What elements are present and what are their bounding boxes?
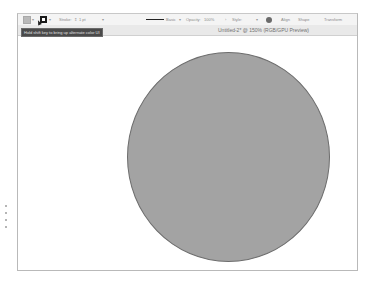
- canvas-ellipse-shape[interactable]: [127, 52, 330, 262]
- shape-button[interactable]: Shape: [298, 15, 310, 24]
- stroke-weight-dropdown[interactable]: ▾: [102, 15, 104, 24]
- stroke-label: Stroke:: [59, 15, 72, 24]
- opacity-label[interactable]: Opacity:: [186, 15, 201, 24]
- stroke-weight-input[interactable]: 1 pt: [79, 15, 86, 24]
- opacity-dropdown[interactable]: ›: [225, 15, 226, 24]
- document-title-tab[interactable]: Untitled-2* @ 150% (RGB/GPU Preview): [218, 27, 309, 33]
- brush-label: Basic: [166, 17, 176, 22]
- align-button[interactable]: Align: [281, 15, 290, 24]
- brush-dropdown[interactable]: ▾: [179, 15, 181, 24]
- margin-dot: [5, 212, 7, 214]
- recolor-button[interactable]: [266, 15, 272, 24]
- transform-button[interactable]: Transform: [324, 15, 342, 24]
- margin-dot: [5, 205, 7, 207]
- style-label[interactable]: Style:: [232, 15, 242, 24]
- tooltip: Hold shift key to bring up alternate col…: [21, 28, 103, 37]
- fill-color-icon: [23, 16, 31, 24]
- fill-swatch[interactable]: [23, 15, 31, 24]
- margin-dot: [5, 219, 7, 221]
- brush-stroke-preview-icon: [146, 19, 164, 20]
- margin-dot: [5, 226, 7, 228]
- recolor-globe-icon: [266, 17, 272, 23]
- stroke-dropdown-caret[interactable]: ▾: [49, 15, 51, 24]
- fill-dropdown-caret[interactable]: ▾: [32, 15, 34, 24]
- margin-marks: [4, 200, 10, 248]
- style-dropdown[interactable]: ▾: [256, 15, 258, 24]
- brush-definition[interactable]: Basic: [146, 15, 176, 24]
- opacity-input[interactable]: 100%: [204, 15, 214, 24]
- stroke-weight-stepper[interactable]: ⇕: [74, 15, 77, 24]
